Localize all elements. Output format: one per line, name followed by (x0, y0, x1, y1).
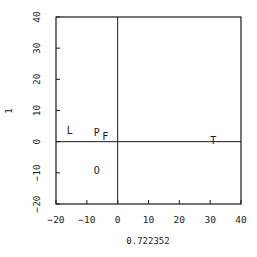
scatter-chart: −20−10010203040 −20−10010203040 LPFOT 0.… (0, 0, 257, 257)
chart-canvas: −20−10010203040 −20−10010203040 LPFOT 0.… (0, 0, 257, 257)
plot-border (56, 17, 241, 204)
point-label-l: L (67, 125, 73, 136)
x-axis-label: 0.722352 (126, 236, 169, 246)
y-axis-label: 1 (4, 108, 14, 113)
y-tick-label: −20 (31, 195, 42, 212)
point-label-f: F (102, 131, 108, 142)
x-tick-label: 20 (174, 214, 186, 225)
y-tick-label: 20 (31, 73, 42, 85)
zero-lines (56, 17, 241, 204)
point-label-t: T (210, 135, 216, 146)
y-tick-label: −10 (31, 164, 42, 181)
x-tick-label: 10 (143, 214, 155, 225)
plot-frame (56, 17, 241, 204)
x-tick-label: 30 (204, 214, 216, 225)
x-tick-label: −10 (78, 214, 95, 225)
y-tick-label: 40 (31, 11, 42, 23)
x-tick-label: 0 (115, 214, 121, 225)
y-tick-label: 30 (31, 42, 42, 54)
point-label-o: O (94, 165, 100, 176)
y-tick-label: 0 (31, 139, 42, 145)
data-points: LPFOT (67, 125, 216, 176)
x-tick-label: 40 (235, 214, 247, 225)
x-tick-label: −20 (47, 214, 64, 225)
y-tick-label: 10 (31, 105, 42, 117)
point-label-p: P (94, 127, 100, 138)
